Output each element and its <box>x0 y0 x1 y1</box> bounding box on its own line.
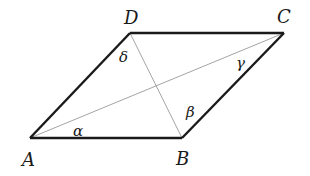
angle-label-beta: β <box>185 103 195 121</box>
vertex-label-d: D <box>123 7 139 28</box>
diagonal-ac <box>30 33 284 138</box>
edge-bc <box>182 33 284 138</box>
parallelogram-diagram: A B C D α β γ δ <box>0 0 310 176</box>
angle-label-delta: δ <box>119 48 128 66</box>
angle-label-alpha: α <box>73 122 83 140</box>
vertex-label-b: B <box>175 148 189 169</box>
vertex-label-a: A <box>20 149 35 170</box>
angle-label-gamma: γ <box>236 54 245 72</box>
vertex-label-c: C <box>277 6 291 27</box>
diagonal-bd <box>130 33 182 138</box>
